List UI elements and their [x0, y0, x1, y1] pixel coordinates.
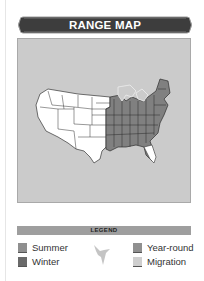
us-map — [18, 39, 192, 204]
legend-header: LEGEND — [17, 226, 191, 235]
legend-item-summer: Summer — [18, 242, 68, 253]
legend-label: Migration — [147, 256, 186, 267]
bird-silhouette-icon — [92, 243, 114, 267]
legend-item-year-round: Year-round — [133, 242, 194, 253]
legend-title: LEGEND — [17, 226, 191, 235]
year-round-swatch — [133, 243, 142, 253]
migration-swatch — [133, 257, 142, 267]
legend-label: Winter — [32, 256, 59, 267]
summer-swatch — [18, 243, 27, 253]
page-title: RANGE MAP — [17, 16, 193, 34]
legend-item-migration: Migration — [133, 256, 186, 267]
legend-label: Summer — [32, 242, 68, 253]
winter-swatch — [18, 257, 27, 267]
range-map-banner: RANGE MAP — [17, 16, 193, 34]
range-map — [17, 38, 191, 203]
legend-item-winter: Winter — [18, 256, 59, 267]
page-margin-rule — [5, 0, 6, 281]
legend-label: Year-round — [147, 242, 194, 253]
